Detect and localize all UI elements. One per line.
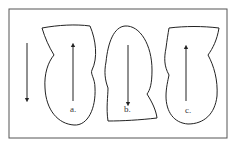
figure-label-b: b.: [124, 105, 131, 114]
figure-label-c: c.: [185, 106, 191, 115]
figure-outline-c: [165, 27, 219, 125]
diagram-canvas: a. b. c.: [0, 0, 234, 147]
figure-outline-b: [105, 26, 157, 121]
diagram-svg: [0, 0, 234, 147]
figure-outline-a: [42, 25, 96, 125]
figure-label-a: a.: [70, 105, 76, 114]
